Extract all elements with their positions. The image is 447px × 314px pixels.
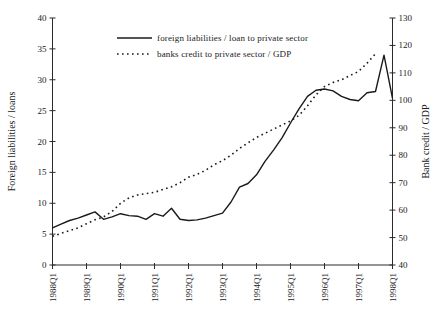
x-tick-label: 1990Q1	[116, 273, 126, 302]
x-tick-label: 1988Q1	[48, 273, 58, 302]
y-right-tick-label: 50	[399, 233, 409, 243]
x-tick-label: 1998Q1	[388, 273, 398, 302]
legend: foreign liabilities / loan to private se…	[117, 33, 308, 59]
y-right-tick-label: 120	[399, 40, 413, 50]
y-right-tick-label: 70	[399, 178, 409, 188]
x-tick-label: 1994Q1	[252, 273, 262, 302]
y-right-tick-label: 80	[399, 150, 409, 160]
y-left-tick-label: 40	[38, 13, 48, 23]
legend-label: foreign liabilities / loan to private se…	[157, 33, 308, 43]
x-tick-label: 1989Q1	[82, 273, 92, 302]
dual-axis-line-chart: 0510152025303540405060708090100110120130…	[0, 0, 447, 314]
chart-figure: 0510152025303540405060708090100110120130…	[0, 0, 447, 314]
y-right-tick-label: 110	[399, 68, 413, 78]
y-left-tick-label: 5	[42, 229, 47, 239]
x-tick-label: 1996Q1	[320, 273, 330, 302]
x-tick-label: 1992Q1	[184, 273, 194, 302]
y-axis-right-title: Bank credit / GDP	[420, 104, 431, 179]
y-left-tick-label: 10	[38, 198, 48, 208]
x-tick-label: 1995Q1	[286, 273, 296, 302]
y-right-tick-label: 130	[399, 13, 413, 23]
y-right-tick-label: 60	[399, 205, 409, 215]
x-tick-label: 1993Q1	[218, 273, 228, 302]
y-left-tick-label: 15	[38, 167, 48, 177]
x-tick-label: 1991Q1	[150, 273, 160, 302]
y-left-tick-label: 25	[38, 106, 48, 116]
y-axis-left-title: Foreign liabilities / loans	[6, 92, 17, 192]
y-right-tick-label: 100	[399, 95, 413, 105]
y-left-tick-label: 0	[42, 260, 47, 270]
series-line-foreign-liabilities	[53, 55, 393, 228]
y-left-tick-label: 20	[38, 137, 48, 147]
series-line-bank-credit	[53, 54, 376, 237]
legend-label: banks credit to private sector / GDP	[157, 49, 291, 59]
x-tick-label: 1997Q1	[354, 273, 364, 302]
y-left-tick-label: 35	[38, 44, 48, 54]
y-right-tick-label: 90	[399, 123, 409, 133]
y-left-tick-label: 30	[38, 75, 48, 85]
y-right-tick-label: 40	[399, 260, 409, 270]
